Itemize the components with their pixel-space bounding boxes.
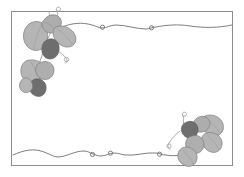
leaf-shape-dark [42, 39, 59, 59]
page-canvas [0, 0, 244, 177]
leaf-shape [36, 61, 54, 79]
decorative-border-artwork [0, 0, 244, 177]
